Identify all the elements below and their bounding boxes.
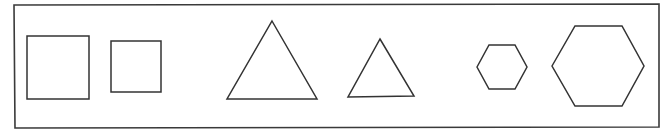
square-large-shape	[27, 36, 89, 99]
shapes-diagram	[0, 0, 672, 134]
hexagon-small-shape	[477, 45, 527, 89]
shapes-figure	[0, 0, 672, 134]
square-small-shape	[111, 41, 161, 92]
hexagon-large-shape	[552, 26, 644, 106]
triangle-small-shape	[348, 39, 414, 97]
triangle-large-shape	[227, 21, 317, 99]
